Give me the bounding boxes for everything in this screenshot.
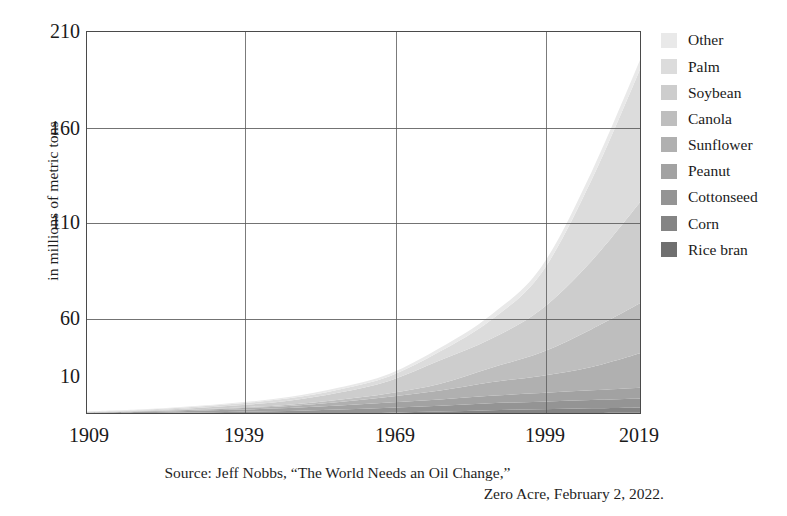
- x-tick-1999: 1999: [525, 424, 565, 447]
- y-tick-160: 160: [22, 118, 80, 138]
- gridline-x-1999: [546, 32, 547, 413]
- legend-item-sunflower[interactable]: Sunflower: [661, 132, 787, 158]
- legend-item-label: Palm: [688, 59, 720, 75]
- y-tick-210: 210: [22, 21, 80, 41]
- legend-swatch-icon: [661, 190, 677, 205]
- caption-line-1: Source: Jeff Nobbs, “The World Needs an …: [165, 464, 511, 481]
- legend-item-label: Other: [688, 32, 723, 48]
- gridline-y-60: [87, 319, 640, 320]
- legend-swatch-icon: [661, 164, 677, 179]
- area-series-rice-bran: [87, 413, 641, 414]
- legend-swatch-icon: [661, 111, 677, 126]
- source-caption: Source: Jeff Nobbs, “The World Needs an …: [0, 462, 675, 504]
- x-tick-2019: 2019: [619, 424, 659, 447]
- x-tick-1969: 1969: [375, 424, 415, 447]
- legend-item-canola[interactable]: Canola: [661, 106, 787, 132]
- legend-swatch-icon: [661, 33, 677, 48]
- x-tick-1939: 1939: [224, 424, 264, 447]
- legend-item-label: Cottonseed: [688, 189, 758, 205]
- gridline-x-1969: [396, 32, 397, 413]
- gridline-y-110: [87, 223, 640, 224]
- y-axis-tick-labels: 210 160 110 60 10: [18, 0, 80, 440]
- x-axis-tick-labels: 1909 1939 1969 1999 2019: [0, 424, 787, 458]
- legend-item-rice-bran[interactable]: Rice bran: [661, 237, 787, 263]
- legend-item-label: Corn: [688, 216, 719, 232]
- legend-swatch-icon: [661, 137, 677, 152]
- plot-area: [86, 31, 641, 414]
- legend-item-other[interactable]: Other: [661, 27, 787, 53]
- gridline-x-1939: [245, 32, 246, 413]
- legend-swatch-icon: [661, 216, 677, 231]
- legend-swatch-icon: [661, 59, 677, 74]
- x-tick-1909: 1909: [69, 424, 109, 447]
- chart-legend: OtherPalmSoybeanCanolaSunflowerPeanutCot…: [661, 27, 787, 263]
- legend-item-cottonseed[interactable]: Cottonseed: [661, 184, 787, 210]
- legend-swatch-icon: [661, 242, 677, 257]
- y-tick-10: 10: [22, 366, 80, 386]
- legend-item-corn[interactable]: Corn: [661, 210, 787, 236]
- chart-figure: in millions of metric tons 210 160 110 6…: [0, 0, 787, 516]
- gridline-y-160: [87, 128, 640, 129]
- caption-line-2: Zero Acre, February 2, 2022.: [0, 483, 675, 504]
- y-tick-110: 110: [22, 212, 80, 232]
- legend-item-peanut[interactable]: Peanut: [661, 158, 787, 184]
- legend-item-label: Rice bran: [688, 242, 748, 258]
- legend-item-label: Soybean: [688, 85, 741, 101]
- y-tick-60: 60: [22, 308, 80, 328]
- legend-item-soybean[interactable]: Soybean: [661, 79, 787, 105]
- legend-item-palm[interactable]: Palm: [661, 53, 787, 79]
- legend-item-label: Canola: [688, 111, 732, 127]
- legend-item-label: Sunflower: [688, 137, 753, 153]
- legend-swatch-icon: [661, 85, 677, 100]
- legend-item-label: Peanut: [688, 163, 730, 179]
